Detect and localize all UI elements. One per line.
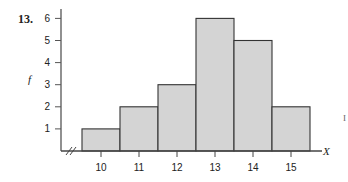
bar-14: [234, 41, 272, 152]
histogram-chart: 13. f 123456 101112131415 X I: [0, 0, 348, 182]
x-tick-label: 11: [134, 162, 145, 173]
x-ticks: 101112131415: [95, 151, 297, 173]
y-tick-label: 5: [44, 35, 50, 46]
problem-number: 13.: [18, 12, 33, 26]
bar-13: [196, 18, 234, 151]
y-ticks: 123456: [44, 13, 61, 134]
bar-10: [82, 129, 120, 151]
y-tick-label: 1: [44, 123, 50, 134]
y-tick-label: 2: [44, 101, 50, 112]
bars: [82, 18, 310, 151]
x-tick-label: 14: [247, 162, 259, 173]
bar-12: [158, 85, 196, 151]
y-tick-label: 4: [44, 57, 50, 68]
bar-11: [120, 107, 158, 151]
x-tick-label: 12: [171, 162, 183, 173]
x-tick-label: 13: [209, 162, 221, 173]
y-tick-label: 3: [44, 79, 50, 90]
x-axis-label: X: [322, 145, 331, 157]
bar-15: [272, 107, 310, 151]
x-tick-label: 10: [95, 162, 107, 173]
x-tick-label: 15: [285, 162, 297, 173]
y-axis-label: f: [28, 73, 33, 85]
y-tick-label: 6: [44, 13, 50, 24]
margin-mark: I: [343, 113, 346, 123]
